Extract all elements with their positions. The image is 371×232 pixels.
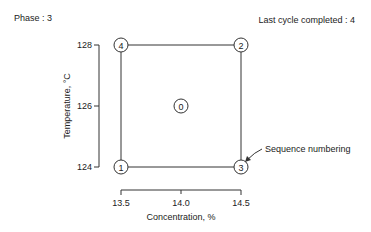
y-tick-128: 128 [77,40,92,50]
point-0: 0 [174,99,188,113]
point-1: 1 [114,160,128,174]
point-4: 4 [114,38,128,52]
x-tick-14.5: 14.5 [232,198,250,208]
point-2: 2 [234,38,248,52]
x-tick-14.0: 14.0 [172,198,190,208]
svg-text:3: 3 [238,163,243,173]
svg-text:2: 2 [238,41,243,51]
point-3: 3 [234,160,248,174]
x-tick-13.5: 13.5 [112,198,130,208]
y-tick-126: 126 [77,101,92,111]
evop-diagram: 128 126 124 Temperature, °C 13.5 14.0 14… [0,0,371,232]
y-axis-label: Temperature, °C [62,73,72,139]
svg-text:1: 1 [118,163,123,173]
x-axis [121,190,241,195]
annotation-label: Sequence numbering [265,144,351,154]
x-axis-label: Concentration, % [146,212,215,222]
svg-text:4: 4 [118,41,123,51]
annotation-arrow [245,149,262,162]
svg-text:0: 0 [178,102,183,112]
y-tick-124: 124 [77,162,92,172]
y-axis [94,45,99,167]
